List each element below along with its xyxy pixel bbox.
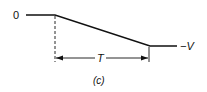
caption: (c) — [93, 75, 105, 86]
level-high-label: 0 — [13, 9, 19, 21]
waveform-line — [26, 15, 177, 46]
arrowhead-left-icon — [56, 56, 63, 61]
duration-label: T — [97, 52, 105, 64]
ramp-waveform-diagram: 0 −V T (c) — [0, 0, 207, 92]
arrowhead-right-icon — [141, 56, 148, 61]
level-low-label: −V — [180, 40, 195, 52]
